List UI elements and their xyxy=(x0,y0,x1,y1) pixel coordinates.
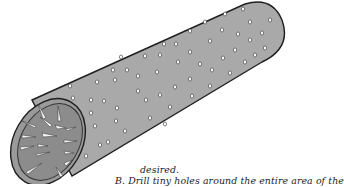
step-b-caption: B. Drill tiny holes around the entire ar… xyxy=(115,175,344,187)
caption-line: desired. xyxy=(140,164,179,176)
